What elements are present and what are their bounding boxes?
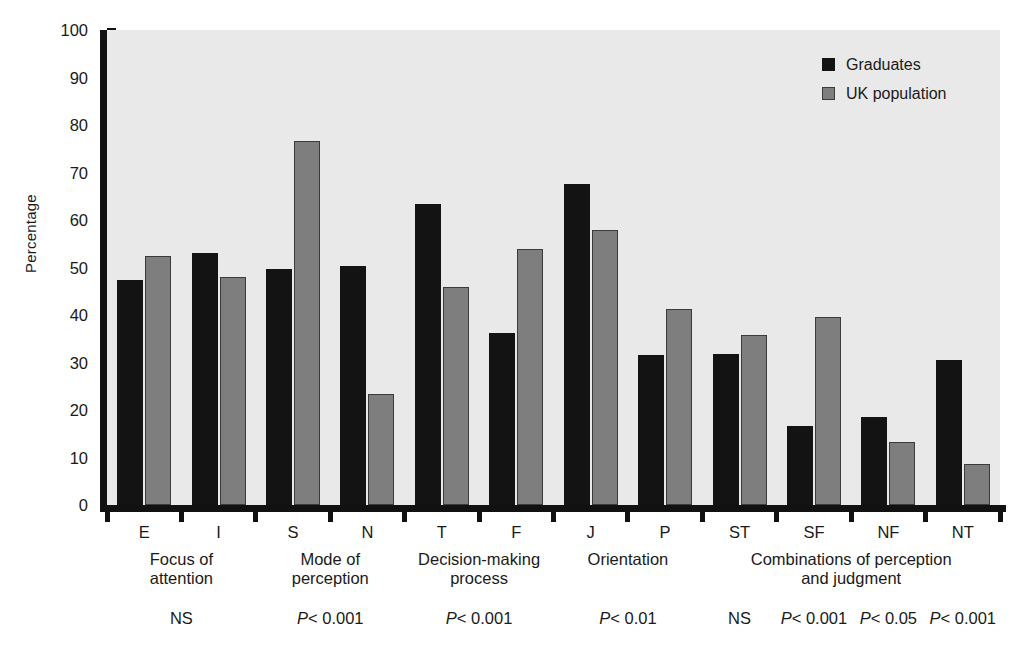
y-axis-tick-label: 90 bbox=[30, 70, 88, 87]
bar-nt-graduates bbox=[936, 360, 962, 505]
bar-t-uk-population bbox=[443, 287, 469, 505]
category-label-sf: SF bbox=[784, 524, 844, 541]
legend-item-graduates: Graduates bbox=[822, 50, 947, 79]
category-label-st: ST bbox=[710, 524, 770, 541]
x-axis-tick bbox=[402, 512, 407, 522]
x-axis-line bbox=[100, 505, 1006, 512]
category-label-nf: NF bbox=[858, 524, 918, 541]
y-axis-tick-label: 80 bbox=[30, 117, 88, 134]
category-label-f: F bbox=[486, 524, 546, 541]
y-axis-tick-label: 30 bbox=[30, 355, 88, 372]
bar-i-graduates bbox=[192, 253, 218, 505]
chart-legend: GraduatesUK population bbox=[822, 50, 947, 108]
bar-st-graduates bbox=[713, 354, 739, 505]
bar-chart-figure: Percentage 0102030405060708090100 EISNTF… bbox=[0, 0, 1023, 651]
x-axis-tick bbox=[774, 512, 779, 522]
category-label-e: E bbox=[114, 524, 174, 541]
bar-n-graduates bbox=[340, 266, 366, 505]
bar-p-uk-population bbox=[666, 309, 692, 505]
y-axis-tick-label: 60 bbox=[30, 212, 88, 229]
y-axis-tick-label: 50 bbox=[30, 260, 88, 277]
bar-j-uk-population bbox=[592, 230, 618, 505]
legend-label: Graduates bbox=[846, 57, 921, 73]
y-axis-line bbox=[100, 30, 107, 506]
category-label-t: T bbox=[412, 524, 472, 541]
legend-label: UK population bbox=[846, 86, 947, 102]
category-label-p: P bbox=[635, 524, 695, 541]
bar-f-uk-population bbox=[517, 249, 543, 506]
bar-sf-graduates bbox=[787, 426, 813, 505]
bar-st-uk-population bbox=[741, 335, 767, 505]
x-axis-tick bbox=[700, 512, 705, 522]
x-axis-tick bbox=[551, 512, 556, 522]
y-axis-tick-label: 100 bbox=[30, 22, 88, 39]
x-axis-tick bbox=[253, 512, 258, 522]
significance-label-n: P< 0.001 bbox=[250, 610, 410, 627]
group-label: Combinations of perceptionand judgment bbox=[701, 550, 1001, 588]
bar-f-graduates bbox=[489, 333, 515, 505]
bar-nf-graduates bbox=[861, 417, 887, 505]
y-axis-tick-label: 40 bbox=[30, 307, 88, 324]
legend-swatch-icon bbox=[822, 87, 835, 100]
x-axis-tick bbox=[849, 512, 854, 522]
category-label-n: N bbox=[337, 524, 397, 541]
x-axis-tick bbox=[625, 512, 630, 522]
bar-s-graduates bbox=[266, 269, 292, 505]
x-axis-tick bbox=[328, 512, 333, 522]
x-axis-tick bbox=[105, 512, 110, 522]
x-axis-tick bbox=[923, 512, 928, 522]
significance-label-nt: P< 0.001 bbox=[883, 610, 1023, 627]
significance-label-i: NS bbox=[101, 610, 261, 627]
bar-n-uk-population bbox=[368, 394, 394, 505]
y-axis-tick-label: 70 bbox=[30, 165, 88, 182]
y-axis-tick-label: 0 bbox=[30, 497, 88, 514]
x-axis-tick bbox=[998, 512, 1003, 522]
category-label-j: J bbox=[561, 524, 621, 541]
category-label-i: I bbox=[189, 524, 249, 541]
y-axis-tick-label: 20 bbox=[30, 402, 88, 419]
category-label-s: S bbox=[263, 524, 323, 541]
category-label-nt: NT bbox=[933, 524, 993, 541]
bar-i-uk-population bbox=[220, 277, 246, 505]
legend-swatch-icon bbox=[822, 58, 835, 71]
bar-nf-uk-population bbox=[889, 442, 915, 505]
bar-t-graduates bbox=[415, 204, 441, 505]
y-axis-tick-label: 10 bbox=[30, 450, 88, 467]
bar-nt-uk-population bbox=[964, 464, 990, 505]
bar-e-graduates bbox=[117, 280, 143, 505]
x-axis-tick bbox=[179, 512, 184, 522]
bar-j-graduates bbox=[564, 184, 590, 505]
bar-s-uk-population bbox=[294, 141, 320, 505]
bar-e-uk-population bbox=[145, 256, 171, 505]
bar-p-graduates bbox=[638, 355, 664, 505]
x-axis-tick bbox=[477, 512, 482, 522]
legend-item-ukpop: UK population bbox=[822, 79, 947, 108]
significance-label-f: P< 0.001 bbox=[399, 610, 559, 627]
bar-sf-uk-population bbox=[815, 317, 841, 505]
